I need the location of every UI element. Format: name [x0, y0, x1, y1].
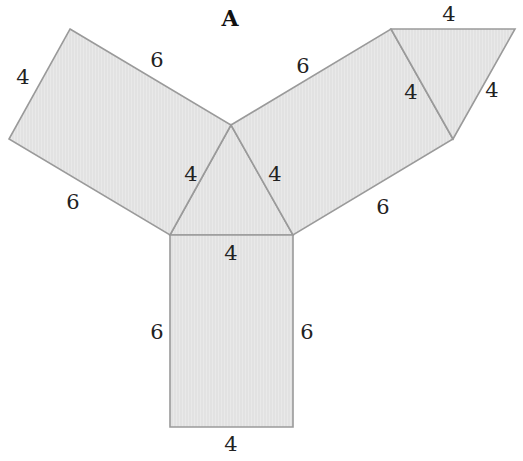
edge-label-tri-left: 4 — [184, 162, 197, 186]
edge-label-top-tri-top: 4 — [442, 2, 455, 26]
edge-label-tri-bottom: 4 — [224, 241, 237, 265]
edge-label-right-rect-inner: 4 — [404, 80, 417, 104]
edge-label-left-rect-left: 4 — [16, 65, 29, 89]
edge-label-left-rect-bottom: 6 — [66, 190, 79, 214]
edge-label-left-rect-top: 6 — [150, 48, 163, 72]
edge-label-right-rect-bottom: 6 — [376, 195, 389, 219]
net-faces — [9, 29, 515, 427]
figure-title: A — [220, 5, 239, 31]
edge-label-bottom-rect-left: 6 — [150, 320, 163, 344]
edge-label-tri-right: 4 — [268, 162, 281, 186]
edge-label-bottom-rect-right: 6 — [300, 320, 313, 344]
prism-net-diagram: 64644464644664 A — [0, 0, 523, 461]
edge-label-right-rect-top: 6 — [296, 54, 309, 78]
edge-label-bottom-rect-bottom: 4 — [224, 432, 237, 456]
edge-label-top-tri-right: 4 — [485, 78, 498, 102]
